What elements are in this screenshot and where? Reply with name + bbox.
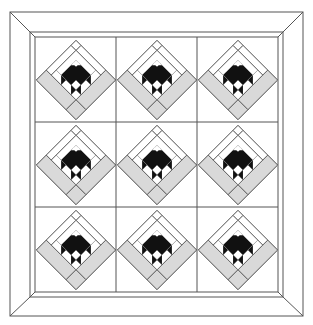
quilt-diagram bbox=[0, 0, 313, 325]
block-grid bbox=[36, 40, 277, 289]
